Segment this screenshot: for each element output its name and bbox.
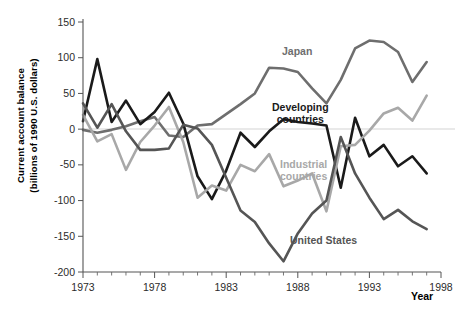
y-tick-label: -50 bbox=[60, 158, 75, 170]
y-tick-label: 0 bbox=[69, 123, 75, 135]
y-tick-label: 150 bbox=[57, 16, 75, 28]
x-tick-label: 1983 bbox=[215, 281, 239, 293]
x-tick-label: 1973 bbox=[71, 281, 95, 293]
chart-figure: -200-150-100-50050100150 197319781983198… bbox=[0, 0, 459, 313]
y-tick-label: 50 bbox=[63, 87, 75, 99]
x-axis-ticks: 197319781983198819931998 bbox=[71, 272, 453, 293]
y-tick-label: -100 bbox=[54, 194, 75, 206]
x-tick-label: 1988 bbox=[286, 281, 310, 293]
current-account-balance-line-chart: -200-150-100-50050100150 197319781983198… bbox=[0, 0, 459, 313]
x-tick-label: 1978 bbox=[143, 281, 167, 293]
series-line-united-states bbox=[83, 103, 427, 261]
y-axis-ticks: -200-150-100-50050100150 bbox=[54, 16, 83, 278]
series-lines bbox=[83, 41, 427, 262]
x-tick-label: 1993 bbox=[358, 281, 382, 293]
y-tick-label: -150 bbox=[54, 230, 75, 242]
x-axis-title: Year bbox=[411, 290, 433, 302]
y-tick-label: 100 bbox=[57, 51, 75, 63]
y-tick-label: -200 bbox=[54, 266, 75, 278]
